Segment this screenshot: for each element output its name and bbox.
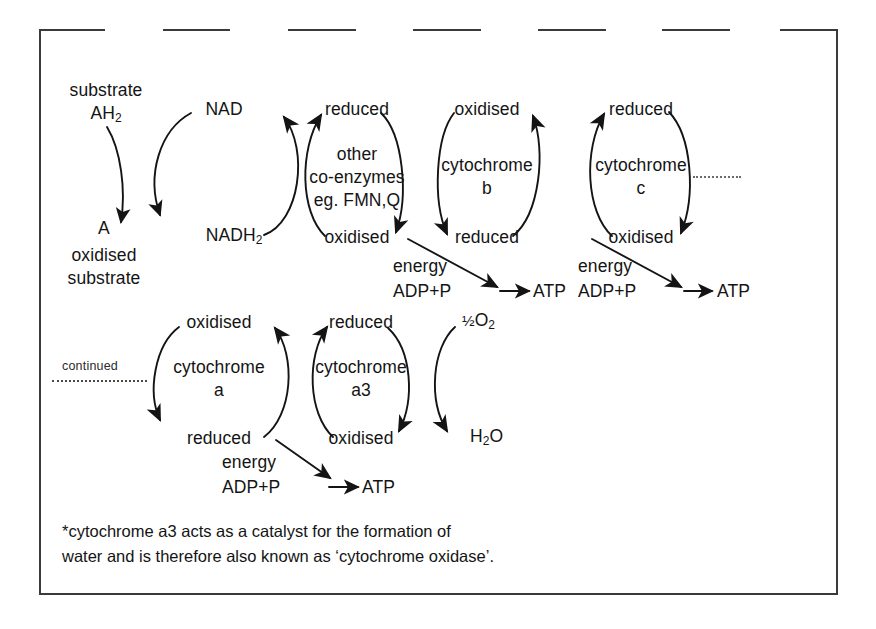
frame-top-segment-7 bbox=[780, 29, 838, 31]
footnote-line-1: *cytochrome a3 acts as a catalyst for th… bbox=[62, 519, 451, 544]
label-cyta3-reduced: reduced bbox=[329, 312, 393, 333]
diagram-frame bbox=[39, 29, 838, 595]
label-cytb-oxidised: oxidised bbox=[454, 99, 519, 120]
frame-top-segment-4 bbox=[413, 29, 481, 31]
label-energy-2: energy bbox=[578, 256, 632, 277]
label-ah2: AH2 bbox=[90, 103, 121, 125]
label-cyta-reduced: reduced bbox=[187, 428, 251, 449]
label-atp-2: ATP bbox=[717, 281, 750, 302]
label-cyta-letter: a bbox=[214, 380, 224, 401]
label-adp-p-1: ADP+P bbox=[393, 281, 451, 302]
dotted-continuation-left bbox=[52, 380, 147, 382]
frame-top-segment-2 bbox=[163, 29, 230, 31]
label-cyta3-oxidised: oxidised bbox=[328, 428, 393, 449]
label-nad: NAD bbox=[205, 99, 242, 120]
label-atp-3: ATP bbox=[362, 477, 395, 498]
label-cytb-reduced: reduced bbox=[455, 227, 519, 248]
footnote-line-2: water and is therefore also known as ‘cy… bbox=[62, 544, 494, 569]
label-cyta-oxidised: oxidised bbox=[186, 312, 251, 333]
label-cyta-name: cytochrome bbox=[173, 357, 264, 378]
label-a: A bbox=[98, 218, 110, 239]
label-cytc-oxidised: oxidised bbox=[608, 227, 673, 248]
label-energy-3: energy bbox=[222, 452, 276, 473]
label-cytc-name: cytochrome bbox=[595, 155, 686, 176]
label-cytb-letter: b bbox=[482, 178, 492, 199]
label-coenzyme-other: other bbox=[337, 144, 377, 165]
label-cytb-name: cytochrome bbox=[441, 155, 532, 176]
label-half-oxygen: ½O2 bbox=[462, 310, 495, 332]
label-coenzyme-examples: eg. FMN,Q bbox=[314, 190, 400, 211]
frame-top-segment-3 bbox=[288, 29, 356, 31]
diagram-canvas: substrate AH2 A oxidised substrate NAD N… bbox=[0, 0, 876, 629]
label-coenzyme-reduced: reduced bbox=[325, 99, 389, 120]
dotted-continuation-right bbox=[693, 176, 741, 178]
label-cytc-reduced: reduced bbox=[609, 99, 673, 120]
label-continued: continued bbox=[62, 359, 118, 373]
frame-top-segment-5 bbox=[538, 29, 606, 31]
label-substrate: substrate bbox=[70, 80, 143, 101]
label-cyta3-name: cytochrome bbox=[315, 357, 406, 378]
label-coenzyme-oxidised: oxidised bbox=[324, 227, 389, 248]
label-water: H2O bbox=[470, 426, 503, 448]
label-oxidised-substrate-line2: substrate bbox=[68, 268, 141, 289]
label-atp-1: ATP bbox=[533, 281, 566, 302]
label-cyta3-letter: a3 bbox=[351, 380, 371, 401]
frame-top-segment-6 bbox=[662, 29, 730, 31]
label-coenzyme-name: co-enzymes bbox=[309, 167, 404, 188]
label-cytc-letter: c bbox=[637, 178, 646, 199]
label-energy-1: energy bbox=[393, 256, 447, 277]
label-oxidised-substrate-line1: oxidised bbox=[71, 245, 136, 266]
label-adp-p-2: ADP+P bbox=[578, 281, 636, 302]
label-adp-p-3: ADP+P bbox=[222, 477, 280, 498]
label-nadh2: NADH2 bbox=[206, 225, 263, 247]
frame-top-segment-1 bbox=[39, 29, 105, 31]
